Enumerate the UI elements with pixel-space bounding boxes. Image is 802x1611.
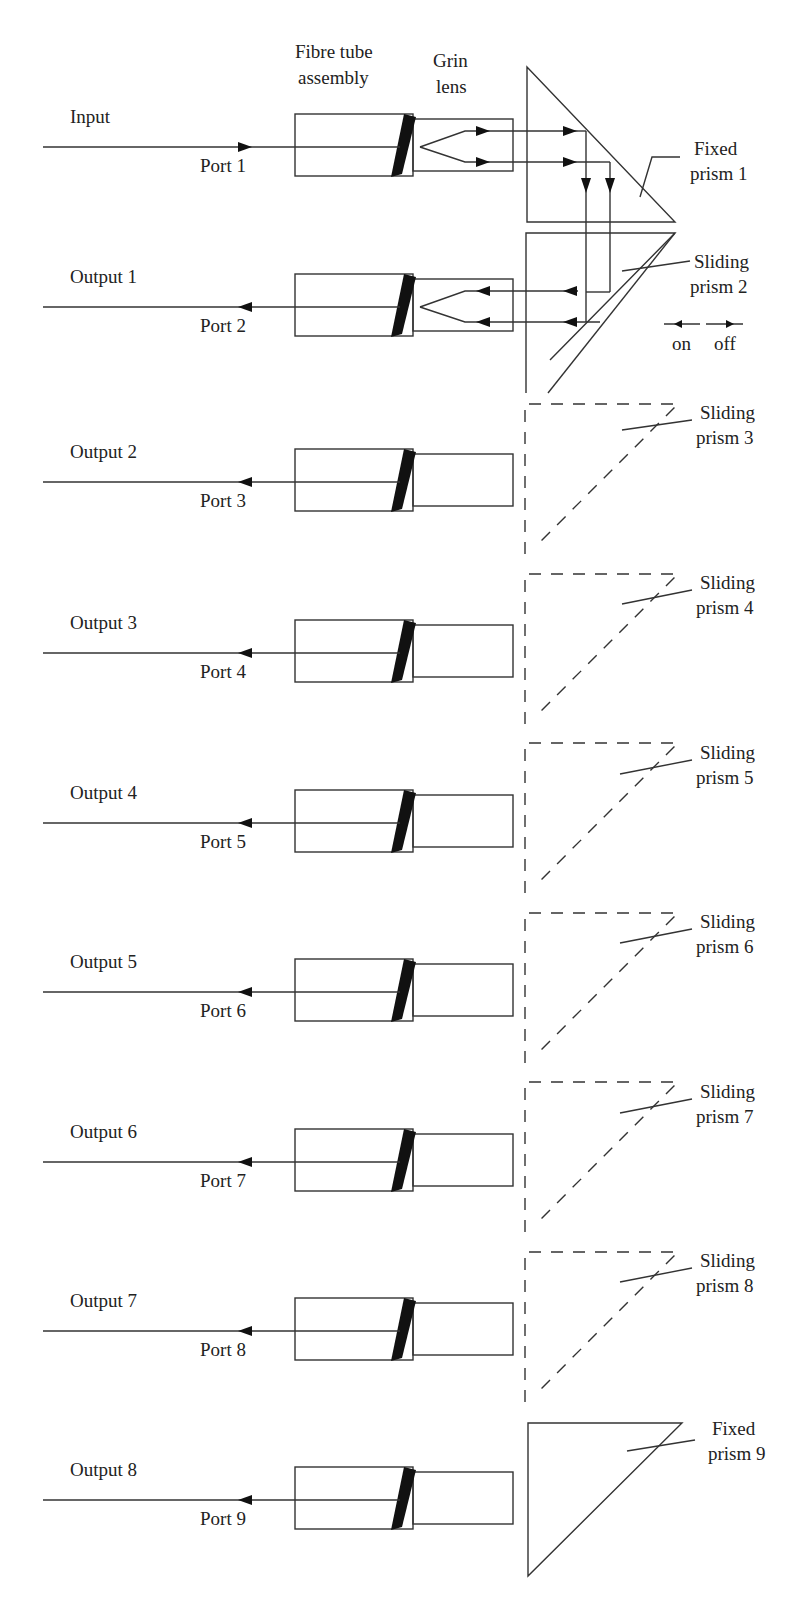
arrow-left-icon [674, 320, 682, 328]
port-row: Output 4Port 5 [43, 782, 513, 853]
prism-type-label: Sliding [700, 1081, 755, 1102]
signal-label: Input [70, 106, 111, 127]
header-grin: Grin [433, 50, 468, 71]
arrow-left-icon [238, 1326, 252, 1336]
prism-type-label: Sliding [700, 911, 755, 932]
port-label: Port 9 [200, 1508, 246, 1529]
prism-name-label: prism 1 [690, 163, 748, 184]
arrow-right-icon [563, 157, 577, 167]
prism-name-label: prism 8 [696, 1275, 754, 1296]
sliding-prism-7 [525, 1082, 678, 1232]
prism-type-label: Sliding [700, 572, 755, 593]
fibre-end-wedge [391, 274, 416, 337]
legend-on: on [672, 333, 692, 354]
arrow-left-icon [238, 477, 252, 487]
arrow-right-icon [238, 142, 252, 152]
arrow-left-icon [238, 302, 252, 312]
grin-lens-box [413, 279, 513, 331]
prism-name-label: prism 5 [696, 767, 754, 788]
arrow-left-icon [238, 648, 252, 658]
port-label: Port 2 [200, 315, 246, 336]
arrow-left-icon [238, 1495, 252, 1505]
prism-type-label: Fixed [694, 138, 738, 159]
grin-lens-box [413, 1134, 513, 1186]
leader-line [620, 1099, 692, 1113]
port-label: Port 3 [200, 490, 246, 511]
sliding-prism-2 [526, 233, 675, 393]
signal-label: Output 5 [70, 951, 137, 972]
prism-name-label: prism 7 [696, 1106, 754, 1127]
prism-type-label: Sliding [694, 251, 749, 272]
leader-line [622, 420, 692, 430]
legend: on off [664, 320, 743, 354]
fibre-end-wedge [391, 620, 416, 683]
signal-label: Output 3 [70, 612, 137, 633]
light-beam [420, 131, 578, 147]
prism-stack: Fixedprism 1Slidingprism 2Slidingprism 3… [525, 67, 766, 1576]
port-label: Port 8 [200, 1339, 246, 1360]
grin-lens-box [413, 119, 513, 171]
prism-type-label: Sliding [700, 742, 755, 763]
leader-line [620, 1268, 692, 1282]
prism-label: Slidingprism 4 [622, 572, 755, 618]
grin-lens-box [413, 964, 513, 1016]
header-fibre-tube-2: assembly [298, 67, 369, 88]
column-headers: Fibre tube assembly Grin lens [295, 41, 468, 97]
port-rows: InputPort 1Output 1Port 2Output 2Port 3O… [43, 106, 615, 1530]
port-row: Output 2Port 3 [43, 441, 513, 512]
prism-name-label: prism 2 [690, 276, 748, 297]
signal-label: Output 1 [70, 266, 137, 287]
signal-label: Output 6 [70, 1121, 137, 1142]
header-fibre-tube: Fibre tube [295, 41, 373, 62]
port-row: Output 7Port 8 [43, 1290, 513, 1361]
prism-name-label: prism 3 [696, 427, 754, 448]
legend-off: off [714, 333, 736, 354]
arrow-right-icon [563, 126, 577, 136]
fibre-end-wedge [391, 1467, 416, 1530]
port-row: Output 5Port 6 [43, 951, 513, 1022]
fixed-prism-1 [527, 67, 675, 222]
arrow-down-icon [581, 178, 591, 193]
prism-type-label: Sliding [700, 402, 755, 423]
grin-lens-box [413, 1303, 513, 1355]
signal-label: Output 4 [70, 782, 138, 803]
port-row: Output 1Port 2 [43, 266, 600, 337]
vertical-beams [578, 131, 615, 322]
light-beam [420, 147, 600, 162]
port-label: Port 4 [200, 661, 246, 682]
grin-lens-box [413, 625, 513, 677]
prism-label: Slidingprism 3 [622, 402, 755, 448]
port-row: Output 6Port 7 [43, 1121, 513, 1192]
fibre-end-wedge [391, 114, 416, 177]
port-label: Port 1 [200, 155, 246, 176]
arrow-left-icon [476, 286, 490, 296]
prism-name-label: prism 6 [696, 936, 754, 957]
arrow-left-icon [238, 987, 252, 997]
grin-lens-box [413, 795, 513, 847]
leader-line [620, 929, 692, 943]
fibre-end-wedge [391, 790, 416, 853]
signal-label: Output 2 [70, 441, 137, 462]
signal-label: Output 8 [70, 1459, 137, 1480]
prism-type-label: Fixed [712, 1418, 756, 1439]
prism-name-label: prism 4 [696, 597, 754, 618]
arrow-left-icon [476, 317, 490, 327]
header-grin-2: lens [436, 76, 467, 97]
fibre-end-wedge [391, 1129, 416, 1192]
arrow-left-icon [563, 317, 577, 327]
arrow-down-icon [605, 178, 615, 193]
arrow-right-icon [726, 320, 734, 328]
port-label: Port 5 [200, 831, 246, 852]
port-label: Port 6 [200, 1000, 246, 1021]
prism-label: Fixedprism 1 [640, 138, 748, 197]
arrow-left-icon [238, 1157, 252, 1167]
prism-type-label: Sliding [700, 1250, 755, 1271]
signal-label: Output 7 [70, 1290, 137, 1311]
sliding-prism-4 [525, 574, 678, 724]
prism-name-label: prism 9 [708, 1443, 766, 1464]
leader-line [620, 760, 692, 774]
light-beam [420, 291, 578, 307]
arrow-right-icon [476, 126, 490, 136]
port-row: Output 3Port 4 [43, 612, 513, 683]
arrow-left-icon [238, 818, 252, 828]
